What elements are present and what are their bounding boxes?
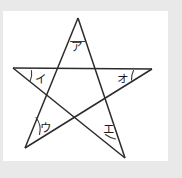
star-outline-group xyxy=(13,18,152,158)
angle-label-e: エ xyxy=(103,122,114,136)
pentagram-diagram: ア イ ウ エ オ xyxy=(0,0,182,178)
angle-arc-o xyxy=(131,71,133,81)
angle-arc-i xyxy=(30,71,32,82)
angle-label-o: オ xyxy=(117,72,128,86)
figure-root: ア イ ウ エ オ xyxy=(0,0,182,178)
angle-label-group: ア イ ウ エ オ xyxy=(35,40,128,136)
star-line-5 xyxy=(25,18,78,148)
star-line-3 xyxy=(13,68,152,69)
angle-label-i: イ xyxy=(35,72,46,86)
angle-label-u: ウ xyxy=(40,121,51,135)
angle-label-a: ア xyxy=(71,40,82,54)
star-line-1 xyxy=(78,18,125,158)
